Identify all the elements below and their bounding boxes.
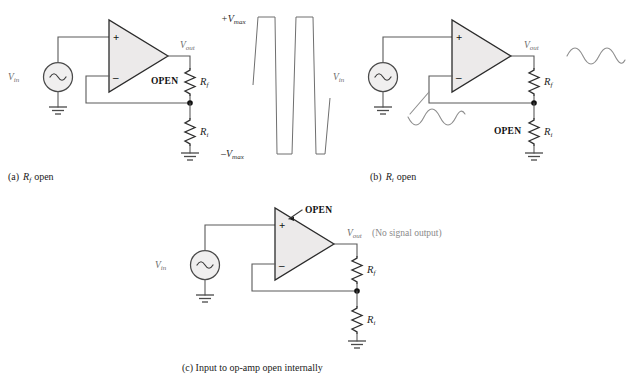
panel-b-open-label: OPEN — [494, 126, 521, 136]
panel-b-ri-label: Ri — [543, 126, 552, 139]
panel-b-plus-label: + — [456, 31, 462, 43]
panel-c-caption: (c) Input to op-amp open internally — [182, 362, 323, 374]
panel-b-ac-source — [369, 63, 398, 92]
panel-b-ground-ri — [525, 153, 543, 160]
square-wave-trace — [253, 17, 330, 154]
panel-c-rf-resistor — [352, 256, 362, 284]
panel-a-vout-label: Vout — [180, 40, 196, 52]
panel-b-vout-label: Vout — [524, 40, 540, 52]
panel-b-ground-source — [374, 107, 392, 114]
panel-a-caption: (a)Rfopen — [8, 171, 54, 184]
panel-a: Vin + – Vout OPEN Rf Ri — [8, 20, 209, 184]
panel-a-minus-label: – — [112, 71, 119, 83]
panel-a-ri-label: Ri — [199, 126, 208, 139]
panel-a-plus-label: + — [113, 31, 119, 43]
panel-b-feedback-sine-wave — [408, 109, 465, 125]
panel-a-ground-source — [49, 107, 67, 114]
panel-c-ri-resistor — [352, 306, 362, 334]
panel-c-wire-output — [334, 244, 357, 256]
panel-a-ground-ri — [181, 153, 199, 160]
panel-b-ri-resistor — [529, 118, 539, 146]
panel-a-rf-label: Rf — [199, 76, 209, 89]
panel-c-vin-label: Vin — [155, 260, 167, 272]
panel-b-minus-label: – — [455, 71, 462, 83]
panel-b-rf-resistor — [529, 68, 539, 96]
panel-c-ground-source — [196, 295, 214, 302]
panel-b-wire-output — [511, 56, 534, 68]
panel-b-wire-source-to-plus — [383, 37, 452, 63]
panel-b-rf-label: Rf — [543, 76, 553, 89]
panel-a-ri-resistor — [185, 118, 195, 146]
figure-root: Vin + – Vout OPEN Rf Ri — [0, 0, 631, 384]
panel-c-no-signal-note: (No signal output) — [372, 228, 442, 239]
panel-b: Vin + – Vout Rf OPEN Ri — [333, 20, 625, 184]
panel-c-minus-label: – — [278, 259, 285, 271]
panel-a-wire-output — [168, 56, 190, 68]
panel-c-open-leader-line — [289, 210, 302, 219]
panel-a-vin-label: Vin — [8, 72, 20, 84]
waveform-vmax-pos-label: +Vmax — [221, 13, 246, 26]
waveform-vmax-neg-label: –Vmax — [220, 148, 245, 161]
panel-c-ri-label: Ri — [366, 314, 375, 327]
panel-c-vout-label: Vout — [347, 228, 363, 240]
panel-b-vin-label: Vin — [333, 72, 345, 84]
panel-c-wire-source-to-plus — [205, 225, 275, 251]
panel-c-plus-label: + — [279, 219, 285, 231]
panel-c-ac-source — [191, 251, 220, 280]
panel-c-ground-ri — [348, 341, 366, 348]
panel-a-open-label: OPEN — [151, 76, 178, 86]
panel-b-output-sine-wave — [567, 48, 625, 64]
panel-b-feedback-leader-line — [410, 92, 429, 114]
waveform-plot-saturated: +Vmax –Vmax — [220, 13, 330, 161]
panel-a-wire-source-to-plus — [58, 37, 109, 63]
panel-a-rf-resistor — [185, 68, 195, 96]
panel-c-wire-feedback — [252, 264, 357, 291]
panel-a-ac-source — [44, 63, 73, 92]
panel-c-open-label: OPEN — [305, 205, 332, 215]
panel-b-caption: (b)Riopen — [370, 171, 416, 184]
panel-b-wire-feedback — [429, 76, 534, 103]
circuit-figure: Vin + – Vout OPEN Rf Ri — [0, 0, 631, 384]
panel-c-rf-label: Rf — [366, 264, 376, 277]
panel-c: Vin + – OPEN Vout (No signal output) Rf … — [155, 205, 442, 374]
